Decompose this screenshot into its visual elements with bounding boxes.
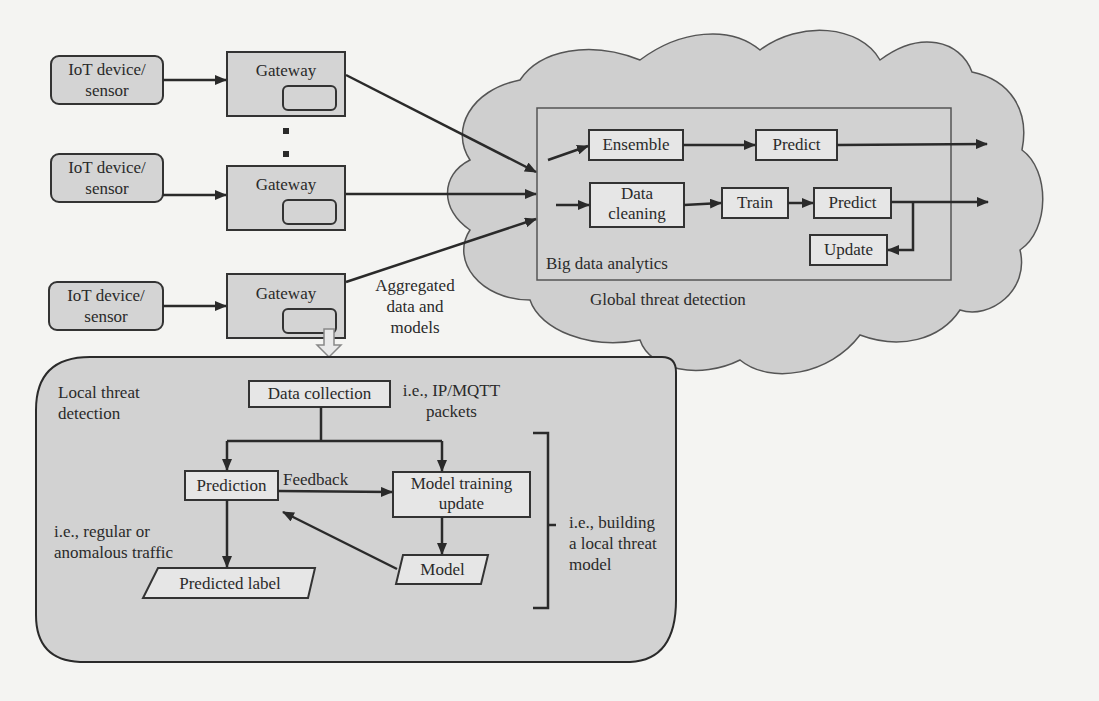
predict-top-label: Predict: [756, 134, 837, 155]
device-label-1: IoT device/ sensor: [51, 59, 163, 101]
ensemble-label: Ensemble: [589, 134, 683, 155]
model-training-line1: Model training: [393, 474, 530, 494]
bracket-note-line1: i.e., building: [569, 512, 657, 533]
ellipsis-dot: [283, 128, 289, 134]
local-title-line2: detection: [58, 403, 140, 424]
bracket-note-line3: model: [569, 554, 657, 575]
device-label-2: IoT device/ sensor: [51, 157, 163, 199]
device-to-gateway-arrows: [163, 80, 226, 306]
global-threat-detection-label: Global threat detection: [590, 289, 746, 310]
model-training-label: Model training update: [393, 474, 530, 514]
ellipsis-dot: [283, 151, 289, 157]
data-collection-label: Data collection: [249, 383, 390, 404]
feedback-label: Feedback: [283, 469, 348, 490]
data-cleaning-label: Data cleaning: [590, 184, 684, 224]
gateway-label-1: Gateway: [227, 60, 345, 81]
data-collection-note: i.e., IP/MQTT packets: [394, 380, 509, 422]
prediction-note: i.e., regular or anomalous traffic: [54, 521, 173, 563]
local-threat-title: Local threat detection: [58, 382, 140, 424]
prediction-note-line1: i.e., regular or: [54, 521, 173, 542]
device-label-line2: sensor: [51, 80, 163, 101]
data-cleaning-line1: Data: [590, 184, 684, 204]
prediction-label: Prediction: [185, 475, 278, 496]
device-label-line2: sensor: [49, 306, 163, 327]
update-label: Update: [810, 239, 887, 260]
device-label-3: IoT device/ sensor: [49, 285, 163, 327]
gateway-label-3: Gateway: [227, 283, 345, 304]
local-title-line1: Local threat: [58, 382, 140, 403]
diagram-canvas: [0, 0, 1099, 701]
aggregated-data-label: Aggregated data and models: [365, 275, 465, 338]
device-label-line2: sensor: [51, 178, 163, 199]
predict-bottom-label: Predict: [814, 192, 891, 213]
aggregated-line1: Aggregated: [365, 275, 465, 296]
device-label-line1: IoT device/: [49, 285, 163, 306]
train-label: Train: [722, 192, 788, 213]
bracket-note-line2: a local threat: [569, 533, 657, 554]
model-training-line2: update: [393, 494, 530, 514]
big-data-analytics-label: Big data analytics: [546, 253, 668, 274]
prediction-note-line2: anomalous traffic: [54, 542, 173, 563]
data-collection-note-line1: i.e., IP/MQTT: [394, 380, 509, 401]
data-collection-note-line2: packets: [394, 401, 509, 422]
device-label-line1: IoT device/: [51, 157, 163, 178]
predicted-label-text: Predicted label: [150, 573, 310, 594]
gateway-label-2: Gateway: [227, 174, 345, 195]
aggregated-line2: data and: [365, 296, 465, 317]
device-label-line1: IoT device/: [51, 59, 163, 80]
model-label: Model: [400, 559, 485, 580]
aggregated-line3: models: [365, 317, 465, 338]
iot-threat-detection-diagram: IoT device/ sensor IoT device/ sensor Io…: [0, 0, 1099, 701]
data-cleaning-line2: cleaning: [590, 204, 684, 224]
bracket-note: i.e., building a local threat model: [569, 512, 657, 575]
